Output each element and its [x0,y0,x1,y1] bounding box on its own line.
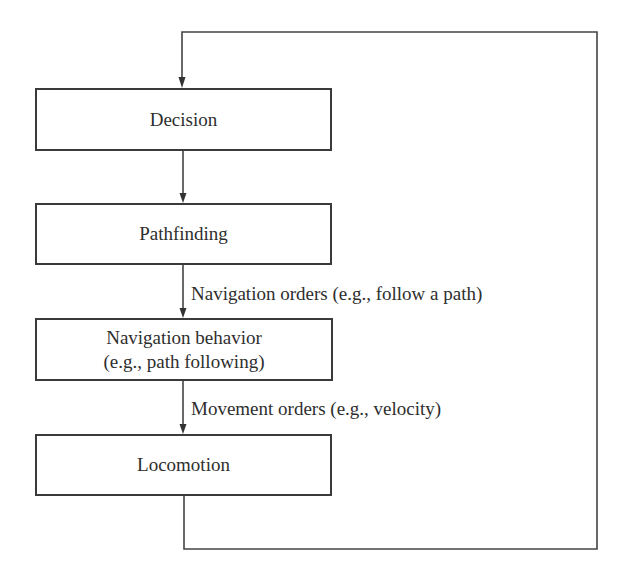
navigation-orders-label: Navigation orders (e.g., follow a path) [191,283,482,305]
arrowhead-icon [180,193,187,203]
pathfinding-label: Pathfinding [139,222,228,246]
locomotion-box: Locomotion [35,434,332,496]
pathfinding-box: Pathfinding [35,203,332,265]
feedback-arrowhead-icon [179,77,186,88]
arrow-navigation-behavior-to-locomotion [180,380,187,434]
navigation-behavior-box: Navigation behavior (e.g., path followin… [35,318,333,381]
arrow-decision-to-pathfinding [180,150,187,203]
navigation-behavior-sublabel: (e.g., path following) [104,350,265,374]
navigation-behavior-label: Navigation behavior [106,326,262,350]
navigation-pipeline-diagram: Decision Pathfinding Navigation behavior… [0,0,625,572]
movement-orders-label: Movement orders (e.g., velocity) [191,398,441,420]
decision-label: Decision [150,108,218,132]
decision-box: Decision [35,88,332,151]
arrowhead-icon [180,308,187,318]
arrow-pathfinding-to-navigation-behavior [180,264,187,318]
locomotion-label: Locomotion [137,453,230,477]
arrowhead-icon [180,424,187,434]
